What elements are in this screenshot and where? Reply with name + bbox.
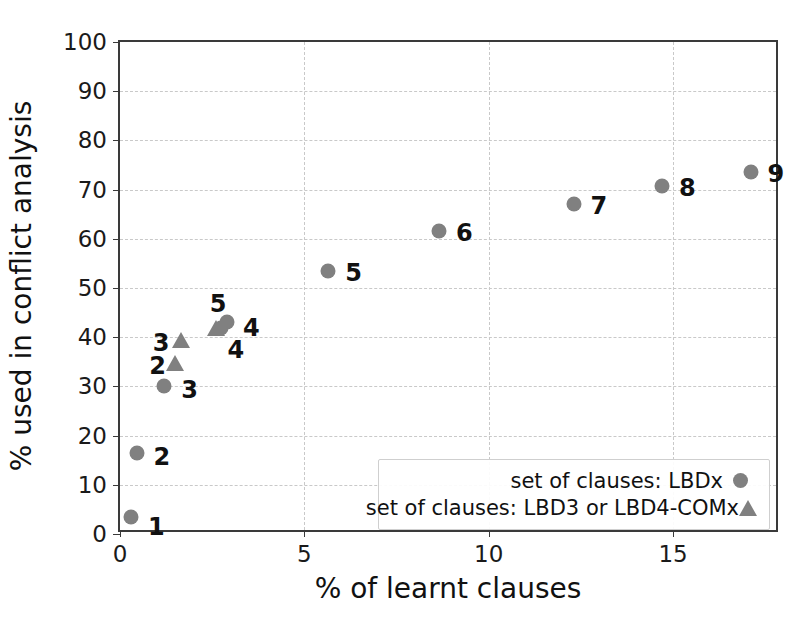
x-tick-label: 10 [474, 541, 503, 567]
y-tick-label: 100 [63, 29, 107, 55]
data-point-circle[interactable] [129, 445, 144, 460]
gridline-horizontal [120, 386, 776, 387]
y-tick-label: 30 [78, 373, 107, 399]
data-point-circle[interactable] [321, 263, 336, 278]
y-tick-mark [113, 337, 120, 338]
legend-entry[interactable]: set of clauses: LBD3 or LBD4-COMx [391, 494, 757, 521]
y-tick-label: 60 [78, 226, 107, 252]
data-point-label: 6 [456, 219, 473, 247]
data-point-label: 7 [591, 192, 608, 220]
circle-icon [733, 473, 748, 488]
gridline-horizontal [120, 140, 776, 141]
data-point-label: 4 [243, 314, 260, 342]
gridline-vertical [489, 42, 490, 530]
data-point-label: 3 [153, 329, 170, 357]
y-tick-label: 90 [78, 78, 107, 104]
data-point-triangle[interactable] [166, 355, 184, 371]
gridline-horizontal [120, 337, 776, 338]
gridline-horizontal [120, 239, 776, 240]
data-point-circle[interactable] [157, 379, 172, 394]
gridline-horizontal [120, 288, 776, 289]
y-tick-mark [113, 239, 120, 240]
y-tick-mark [113, 288, 120, 289]
y-axis-label: % used in conflict analysis [0, 40, 44, 532]
y-tick-label: 80 [78, 127, 107, 153]
legend-marker-triangle-icon [739, 500, 757, 516]
y-tick-label: 10 [78, 472, 107, 498]
legend-entry-label: set of clauses: LBD3 or LBD4-COMx [366, 496, 739, 520]
gridline-vertical [673, 42, 674, 530]
y-tick-label: 70 [78, 177, 107, 203]
x-tick-mark [304, 530, 305, 537]
legend-marker-circle-icon [723, 473, 757, 488]
legend-entry-label: set of clauses: LBDx [510, 469, 723, 493]
data-point-label: 1 [148, 513, 165, 541]
triangle-icon [739, 500, 757, 516]
data-point-triangle[interactable] [207, 320, 225, 336]
data-point-label: 4 [227, 336, 244, 364]
y-tick-label: 20 [78, 423, 107, 449]
data-point-label: 3 [181, 376, 198, 404]
y-tick-label: 40 [78, 324, 107, 350]
data-point-triangle[interactable] [172, 332, 190, 348]
x-tick-mark [673, 530, 674, 537]
y-tick-label: 0 [92, 521, 107, 547]
data-point-label: 9 [768, 160, 785, 188]
gridline-vertical [304, 42, 305, 530]
data-point-label: 2 [154, 443, 171, 471]
x-axis-label: % of learnt clauses [118, 572, 778, 605]
data-point-circle[interactable] [655, 178, 670, 193]
gridline-horizontal [120, 91, 776, 92]
y-tick-mark [113, 190, 120, 191]
gridline-horizontal [120, 190, 776, 191]
y-tick-mark [113, 485, 120, 486]
x-tick-label: 15 [658, 541, 687, 567]
y-tick-label: 50 [78, 275, 107, 301]
data-point-label: 5 [210, 290, 227, 318]
y-tick-mark [113, 386, 120, 387]
data-point-circle[interactable] [566, 197, 581, 212]
y-tick-mark [113, 42, 120, 43]
y-tick-mark [113, 436, 120, 437]
gridline-horizontal [120, 436, 776, 437]
legend-entry[interactable]: set of clauses: LBDx [391, 467, 757, 494]
y-tick-mark [113, 534, 120, 535]
data-point-label: 8 [679, 174, 696, 202]
data-point-circle[interactable] [743, 164, 758, 179]
chart-legend: set of clauses: LBDxset of clauses: LBD3… [378, 459, 770, 530]
y-tick-mark [113, 91, 120, 92]
data-point-circle[interactable] [124, 509, 139, 524]
x-tick-mark [120, 530, 121, 537]
y-tick-mark [113, 140, 120, 141]
x-tick-label: 5 [297, 541, 312, 567]
data-point-label: 5 [345, 259, 362, 287]
scatter-chart-figure: % used in conflict analysis % of learnt … [0, 0, 807, 625]
data-point-circle[interactable] [431, 224, 446, 239]
x-tick-label: 0 [113, 541, 128, 567]
x-tick-mark [489, 530, 490, 537]
